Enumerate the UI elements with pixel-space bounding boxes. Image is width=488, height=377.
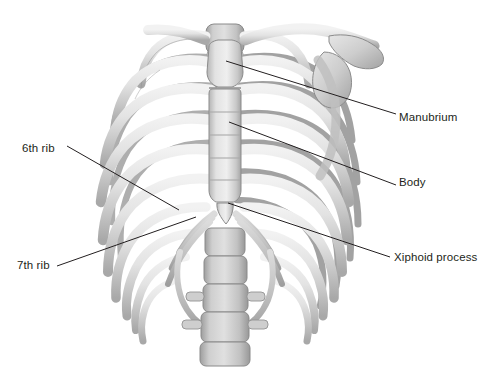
label-xiphoid-process: Xiphoid process	[394, 251, 477, 264]
vertebra-l5	[200, 342, 250, 366]
manubrium-bone	[207, 40, 243, 87]
vertebra-l1	[205, 228, 245, 256]
vertebra-l3	[186, 284, 265, 312]
sternal-body-bone	[209, 89, 241, 202]
vertebra-l2	[204, 256, 247, 284]
label-body: Body	[399, 176, 426, 189]
rib-10-left	[276, 281, 308, 341]
xiphoid-process-bone	[217, 203, 233, 224]
label-6th-rib: 6th rib	[22, 142, 55, 155]
lumbar-vertebrae	[182, 228, 268, 366]
anatomy-figure: Manubrium Body Xiphoid process 6th rib 7…	[0, 0, 488, 377]
label-manubrium: Manubrium	[399, 111, 457, 124]
label-7th-rib: 7th rib	[17, 259, 50, 272]
sternum	[207, 40, 243, 224]
rib-10-right	[142, 281, 174, 341]
